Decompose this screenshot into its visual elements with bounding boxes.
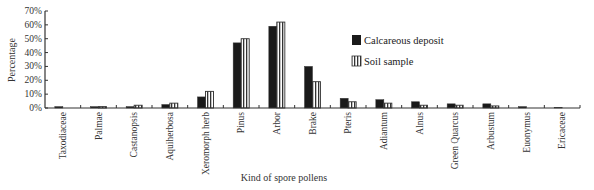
x-category-label: Green Quarcus	[450, 112, 460, 170]
x-category-label: Arbustum	[486, 111, 496, 150]
y-tick-label: 10%	[25, 89, 43, 99]
bar-soil-sample	[170, 103, 178, 108]
bar-soil-sample	[313, 82, 321, 108]
bar-calcareous-deposit	[412, 102, 420, 108]
x-category-label: Pinus	[236, 112, 246, 133]
x-category-label: Ericaceae	[557, 112, 567, 149]
y-tick-label: 70%	[25, 6, 43, 16]
x-axis-title: Kind of spore pollens	[241, 172, 327, 183]
x-category-label: Euonymus	[522, 112, 532, 153]
bar-calcareous-deposit	[447, 104, 455, 108]
bar-chart: 0%10%20%30%40%50%60%70% TaxodiaceaePalma…	[0, 0, 594, 190]
x-category-label: Alnus	[415, 112, 425, 135]
x-axis: TaxodiaceaePalmaeCastanopsisAquiherbosaX…	[45, 105, 580, 175]
bar-soil-sample	[241, 39, 249, 108]
legend-label-calcareous: Calcareous deposit	[364, 35, 444, 46]
legend-label-soil: Soil sample	[364, 56, 414, 67]
bar-soil-sample	[206, 91, 214, 108]
x-category-label: Pteris	[343, 112, 353, 134]
bar-calcareous-deposit	[340, 98, 348, 108]
y-tick-label: 30%	[25, 61, 43, 71]
bar-calcareous-deposit	[233, 43, 241, 108]
bar-calcareous-deposit	[269, 26, 277, 108]
bar-soil-sample	[348, 102, 356, 108]
x-category-label: Xeromorph herb	[201, 112, 211, 175]
bar-soil-sample	[277, 22, 285, 108]
y-tick-label: 0%	[29, 103, 42, 113]
bar-calcareous-deposit	[198, 97, 206, 108]
x-category-label: Taxodiaceae	[58, 112, 68, 159]
bar-calcareous-deposit	[483, 104, 491, 108]
legend-swatch-soil	[352, 56, 361, 66]
bar-calcareous-deposit	[305, 66, 313, 108]
x-category-label: Arbor	[272, 111, 282, 135]
x-category-label: Brake	[308, 112, 318, 135]
y-axis: 0%10%20%30%40%50%60%70%	[25, 6, 48, 113]
x-category-label: Aquiherbosa	[165, 111, 175, 160]
y-tick-label: 50%	[25, 34, 43, 44]
y-tick-label: 20%	[25, 75, 43, 85]
y-axis-title: Percentage	[6, 38, 17, 82]
x-category-label: Palmae	[94, 112, 104, 140]
y-tick-label: 60%	[25, 20, 43, 30]
legend: Calcareous deposit Soil sample	[352, 35, 444, 67]
legend-swatch-calcareous	[352, 35, 361, 45]
x-category-label: Castanopsis	[129, 112, 139, 158]
y-tick-label: 40%	[25, 48, 43, 58]
x-category-label: Adiantum	[379, 111, 389, 150]
bar-soil-sample	[384, 103, 392, 108]
bars	[55, 22, 562, 108]
bar-calcareous-deposit	[376, 100, 384, 108]
